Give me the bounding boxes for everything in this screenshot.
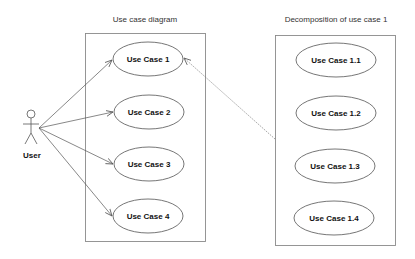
association-user-uc4[interactable] [39,128,112,216]
use-case-4-label: Use Case 4 [127,212,170,221]
use-case-2-label: Use Case 2 [128,108,171,117]
decomposition-link[interactable] [184,58,275,139]
use-case-1-label: Use Case 1 [127,55,170,64]
association-user-uc2[interactable] [39,112,113,128]
actor-label: User [23,151,41,160]
use-case-4[interactable]: Use Case 4 [113,199,183,233]
use-case-diagram-title: Use case diagram [113,15,178,24]
use-case-1[interactable]: Use Case 1 [113,42,183,76]
use-case-1-4-label: Use Case 1.4 [309,214,359,223]
decomposition-title: Decomposition of use case 1 [285,15,388,24]
use-case-1-1-label: Use Case 1.1 [311,56,361,65]
use-case-1-4[interactable]: Use Case 1.4 [294,201,374,235]
use-case-1-2-label: Use Case 1.2 [311,109,361,118]
use-case-2[interactable]: Use Case 2 [114,95,184,129]
use-case-1-2[interactable]: Use Case 1.2 [296,96,376,130]
use-case-diagram-group: Use case diagram Use Case 1 Use Case 2 U… [86,15,206,242]
associations [39,60,113,216]
use-case-3[interactable]: Use Case 3 [114,147,184,181]
association-user-uc1[interactable] [39,60,112,128]
use-case-diagram-canvas: Use case diagram Use Case 1 Use Case 2 U… [0,0,415,259]
actor-user[interactable]: User [23,110,41,160]
association-user-uc3[interactable] [39,128,113,164]
stick-figure-icon [23,110,39,144]
use-case-1-3[interactable]: Use Case 1.3 [295,149,375,183]
use-case-1-3-label: Use Case 1.3 [310,162,360,171]
decomposition-group: Decomposition of use case 1 Use Case 1.1… [276,15,396,246]
use-case-3-label: Use Case 3 [128,160,171,169]
use-case-1-1[interactable]: Use Case 1.1 [296,43,376,77]
